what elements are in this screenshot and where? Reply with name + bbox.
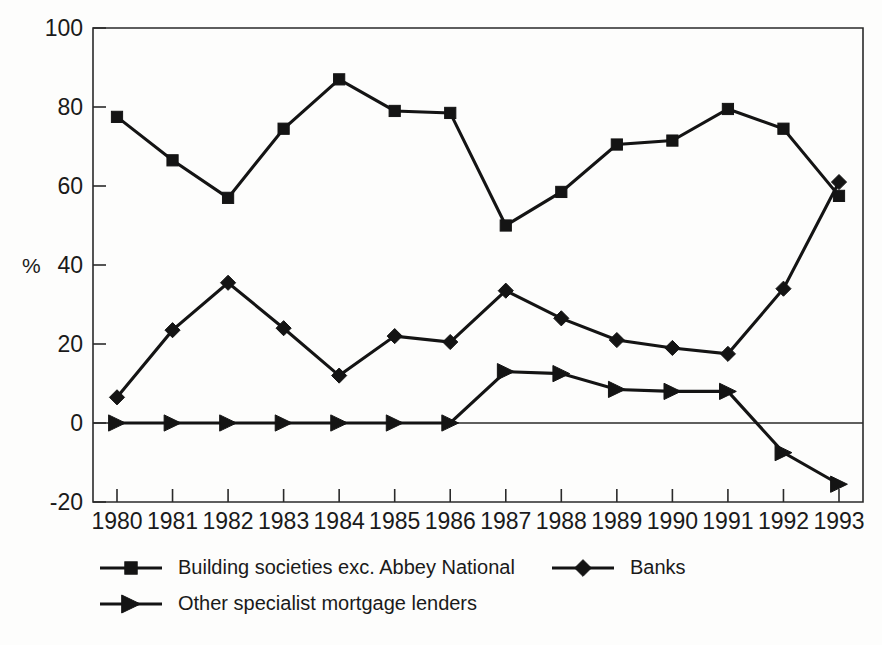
x-tick-label: 1981 — [147, 508, 198, 534]
y-axis-title: % — [22, 254, 41, 277]
data-point-marker — [664, 383, 681, 399]
x-tick-label: 1983 — [258, 508, 309, 534]
y-axis-ticks — [93, 28, 106, 502]
data-point-marker — [278, 123, 289, 134]
y-tick-label: 100 — [45, 15, 83, 41]
data-point-marker — [109, 415, 126, 431]
series-line — [117, 182, 839, 397]
x-tick-label: 1986 — [425, 508, 476, 534]
y-axis-title-text: % — [22, 254, 41, 277]
y-tick-label: 60 — [57, 173, 83, 199]
x-tick-label: 1987 — [480, 508, 531, 534]
x-tick-label: 1991 — [702, 508, 753, 534]
data-point-marker — [608, 381, 625, 397]
data-point-marker — [500, 220, 511, 231]
data-point-marker — [554, 311, 569, 326]
data-point-marker — [665, 340, 680, 355]
series-3 — [109, 364, 848, 493]
x-tick-label: 1992 — [758, 508, 809, 534]
y-axis-tick-labels: -20020406080100 — [45, 15, 83, 515]
data-point-marker — [331, 415, 348, 431]
legend-label: Banks — [630, 556, 686, 578]
line-chart: -20020406080100 198019811982198319841985… — [0, 0, 882, 645]
data-point-marker — [222, 192, 233, 203]
data-point-marker — [125, 562, 137, 574]
legend-item: Banks — [552, 556, 686, 578]
legend-label: Building societies exc. Abbey National — [178, 556, 515, 578]
axis-frame — [93, 28, 863, 502]
chart-figure: -20020406080100 198019811982198319841985… — [0, 0, 882, 645]
data-point-marker — [275, 415, 292, 431]
legend-item: Other specialist mortgage lenders — [100, 592, 477, 614]
x-tick-label: 1988 — [536, 508, 587, 534]
data-point-marker — [497, 364, 514, 380]
data-point-marker — [111, 111, 122, 122]
data-point-marker — [334, 74, 345, 85]
x-axis-tick-labels: 1980198119821983198419851986198719881989… — [91, 508, 864, 534]
x-tick-label: 1985 — [369, 508, 420, 534]
data-point-marker — [167, 155, 178, 166]
y-tick-label: 40 — [57, 252, 83, 278]
y-tick-label: -20 — [50, 489, 83, 515]
data-point-marker — [122, 595, 141, 613]
data-point-marker — [556, 186, 567, 197]
data-point-marker — [778, 123, 789, 134]
y-tick-label: 80 — [57, 94, 83, 120]
data-point-marker — [667, 135, 678, 146]
data-point-marker — [775, 445, 792, 461]
data-point-marker — [609, 332, 624, 347]
x-tick-label: 1980 — [91, 508, 142, 534]
y-tick-label: 20 — [57, 331, 83, 357]
series-2 — [109, 174, 846, 404]
series-layer — [109, 74, 848, 493]
data-point-marker — [389, 105, 400, 116]
legend-label: Other specialist mortgage lenders — [178, 592, 477, 614]
data-point-marker — [611, 139, 622, 150]
y-tick-label: 0 — [70, 410, 83, 436]
data-point-marker — [722, 103, 733, 114]
x-tick-label: 1993 — [813, 508, 864, 534]
data-point-marker — [553, 366, 570, 382]
chart-legend: Building societies exc. Abbey NationalBa… — [100, 556, 686, 614]
data-point-marker — [445, 107, 456, 118]
legend-item: Building societies exc. Abbey National — [100, 556, 515, 578]
data-point-marker — [220, 415, 237, 431]
x-tick-label: 1990 — [647, 508, 698, 534]
data-point-marker — [164, 415, 181, 431]
series-1 — [111, 74, 844, 231]
x-tick-label: 1982 — [202, 508, 253, 534]
x-tick-label: 1989 — [591, 508, 642, 534]
x-tick-label: 1984 — [314, 508, 365, 534]
data-point-marker — [575, 560, 592, 577]
x-axis-ticks — [117, 489, 839, 502]
data-point-marker — [386, 415, 403, 431]
